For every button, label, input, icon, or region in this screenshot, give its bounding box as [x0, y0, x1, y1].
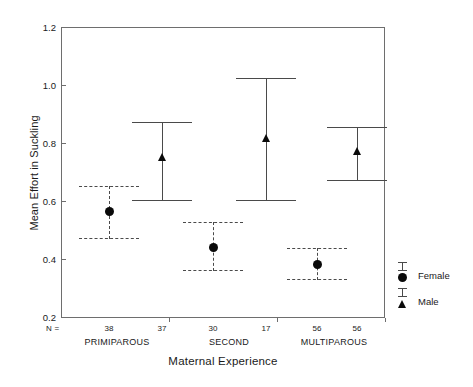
y-axis-title: Mean Effort in Suckling [24, 28, 44, 318]
legend-row-male: Male [396, 288, 471, 314]
datapoint-male-primiparous [158, 153, 166, 161]
triangle-marker-icon [398, 300, 406, 308]
y-tick-mark-0.8 [61, 143, 66, 144]
errorbar-icon [396, 288, 410, 310]
datapoint-female-multiparous [313, 260, 322, 269]
x-tick-separator-1 [169, 318, 170, 322]
errorbar-male-primiparous [132, 122, 192, 201]
errorbar-cap-bottom [79, 238, 139, 239]
legend-label-female: Female [418, 270, 450, 281]
errorbar-icon [396, 262, 410, 284]
y-tick-label-0.8: 0.8 [22, 139, 56, 149]
n-count-male-multiparous: 56 [344, 324, 370, 333]
y-tick-mark-0.2 [61, 317, 66, 318]
legend-stem [402, 289, 403, 296]
x-group-label-multiparous: MULTIPAROUS [282, 337, 386, 347]
x-axis-title: Maternal Experience [61, 355, 385, 367]
errorbar-cap-bottom [132, 200, 192, 201]
datapoint-female-primiparous [105, 207, 114, 216]
y-tick-label-0.4: 0.4 [22, 255, 56, 265]
n-count-female-multiparous: 56 [304, 324, 330, 333]
datapoint-male-second [262, 134, 270, 142]
errorbar-cap-bottom [236, 200, 296, 201]
x-group-label-second: SECOND [177, 337, 281, 347]
errorbar-stem [162, 122, 163, 201]
datapoint-male-multiparous [353, 147, 361, 155]
legend-row-female: Female [396, 262, 471, 288]
n-count-female-primiparous: 38 [96, 324, 122, 333]
legend-label-male: Male [418, 296, 439, 307]
n-count-male-second: 17 [253, 324, 279, 333]
x-group-label-primiparous: PRIMIPAROUS [65, 337, 169, 347]
y-tick-mark-1.2 [61, 27, 66, 28]
n-count-female-second: 30 [200, 324, 226, 333]
n-row-label: N = [46, 324, 60, 333]
errorbar-cap-bottom [327, 180, 387, 181]
circle-marker-icon [398, 273, 407, 282]
legend-cap-bottom [398, 270, 407, 271]
x-tick-separator-3 [385, 318, 386, 322]
y-tick-label-1.2: 1.2 [22, 23, 56, 33]
y-tick-label-1.0: 1.0 [22, 81, 56, 91]
legend-cap-bottom [398, 296, 407, 297]
chart-figure: Mean Effort in Suckling 1.2 1.0 0.8 0.6 … [0, 0, 473, 387]
y-tick-label-0.2: 0.2 [22, 313, 56, 323]
y-tick-mark-0.4 [61, 259, 66, 260]
x-tick-separator-2 [277, 318, 278, 322]
datapoint-female-second [209, 243, 218, 252]
errorbar-cap-bottom [183, 270, 243, 271]
y-tick-label-0.6: 0.6 [22, 197, 56, 207]
y-tick-mark-0.6 [61, 201, 66, 202]
errorbar-cap-bottom [287, 279, 347, 280]
legend-stem [402, 263, 403, 270]
y-tick-mark-1.0 [61, 85, 66, 86]
legend: Female Male [396, 262, 471, 314]
n-count-male-primiparous: 37 [149, 324, 175, 333]
